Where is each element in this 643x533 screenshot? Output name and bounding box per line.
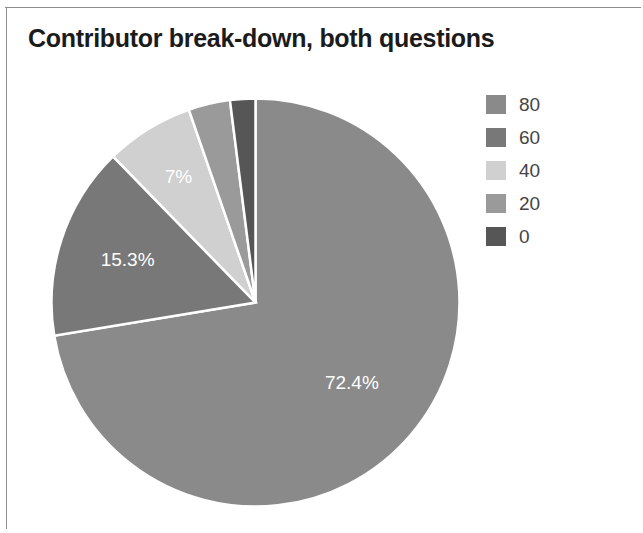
legend-item-label: 20 xyxy=(519,194,540,213)
chart-title: Contributor break-down, both questions xyxy=(28,24,494,53)
pie-chart-figure: Contributor break-down, both questions 7… xyxy=(0,0,643,533)
legend-item-label: 80 xyxy=(519,95,540,114)
legend-swatch-icon xyxy=(486,95,506,114)
legend-item[interactable]: 80 xyxy=(486,88,596,121)
legend-swatch-icon xyxy=(486,128,506,147)
legend-swatch-icon xyxy=(486,194,506,213)
figure-left-border xyxy=(6,7,7,529)
legend-item[interactable]: 60 xyxy=(486,121,596,154)
figure-top-border xyxy=(5,7,641,8)
legend-item[interactable]: 0 xyxy=(486,220,596,253)
legend-swatch-icon xyxy=(486,227,506,246)
legend-swatch-icon xyxy=(486,161,506,180)
pie-slice-label: 7% xyxy=(165,166,193,187)
legend-item-label: 60 xyxy=(519,128,540,147)
pie-slice-group xyxy=(52,99,460,507)
pie-plot-area: 72.4%15.3%7% xyxy=(48,95,463,510)
chart-legend: 806040200 xyxy=(486,88,596,253)
legend-item-label: 0 xyxy=(519,227,530,246)
legend-item[interactable]: 20 xyxy=(486,187,596,220)
pie-slice-label: 72.4% xyxy=(325,372,379,393)
pie-svg: 72.4%15.3%7% xyxy=(48,95,463,510)
legend-item[interactable]: 40 xyxy=(486,154,596,187)
legend-item-label: 40 xyxy=(519,161,540,180)
pie-slice-label: 15.3% xyxy=(101,249,155,270)
